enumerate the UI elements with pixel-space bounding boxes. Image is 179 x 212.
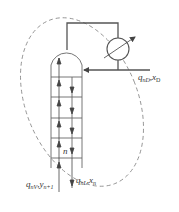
liquid-outlet-label: qnL,xn xyxy=(76,175,96,186)
vapor-flow xyxy=(57,58,61,192)
vapor-inlet-label: qnV,yn+1 xyxy=(26,179,53,190)
plate-n-label: n xyxy=(63,146,68,156)
distillate-label: qnD,xD xyxy=(138,72,161,83)
control-boundary xyxy=(0,0,167,205)
distillation-diagram: n qnD,xD qnV,yn+1 qnL,xn xyxy=(0,0,179,212)
condenser xyxy=(104,37,135,60)
